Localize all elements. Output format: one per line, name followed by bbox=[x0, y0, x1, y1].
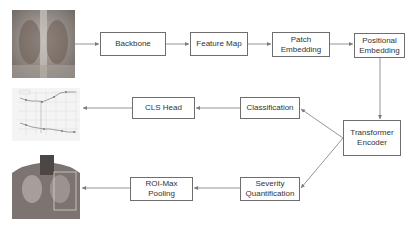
flow-arrows bbox=[0, 0, 415, 230]
